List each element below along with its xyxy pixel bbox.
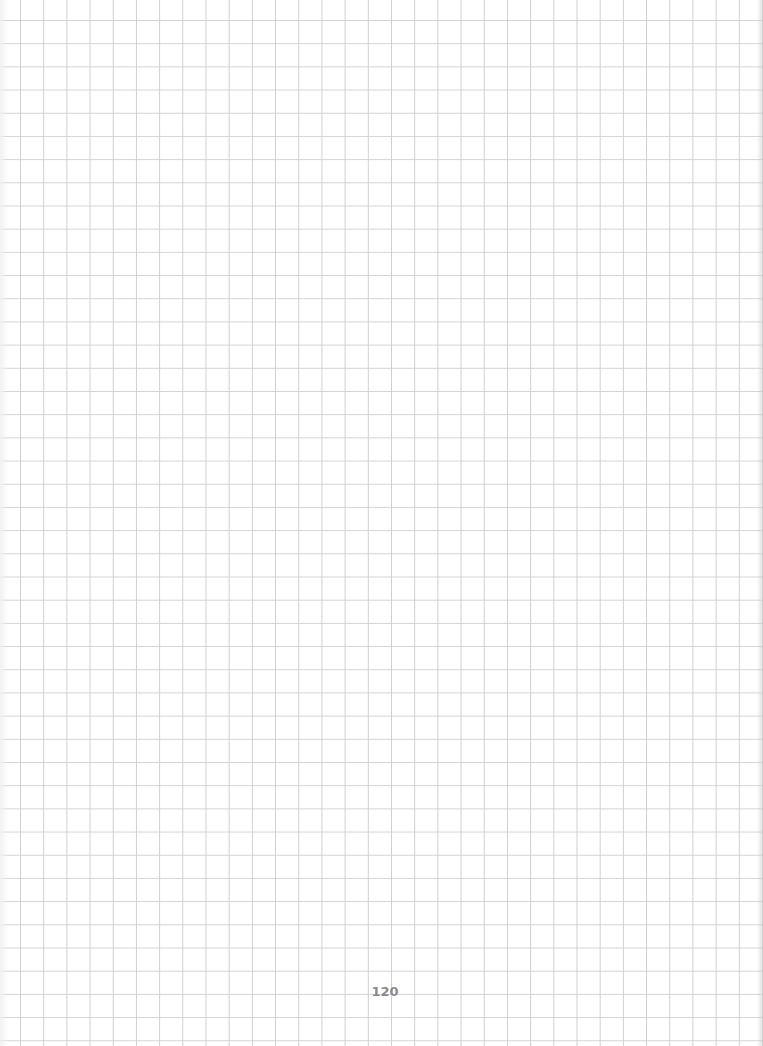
page-edge-shadow-left [0, 0, 8, 1046]
grid-paper-page: 120 [0, 0, 763, 1046]
page-number: 120 [360, 984, 410, 999]
page-edge-shadow-right [757, 0, 763, 1046]
